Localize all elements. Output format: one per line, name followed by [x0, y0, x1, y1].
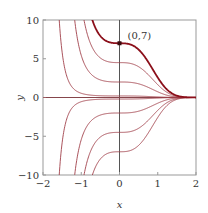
- x-tick-label: −1: [74, 178, 89, 189]
- point-annotation: (0,7): [128, 30, 152, 41]
- x-axis-label: x: [117, 199, 123, 210]
- chart: −2−1012−10−50510 (0,7) x y: [0, 0, 208, 213]
- y-tick-label: −5: [24, 131, 39, 142]
- point-marker: [118, 41, 122, 45]
- y-axis-label: y: [14, 95, 25, 102]
- y-tick-label: 0: [33, 92, 39, 103]
- y-tick-label: 5: [33, 53, 39, 64]
- x-tick-label: 1: [155, 178, 161, 189]
- x-tick-label: 2: [193, 178, 199, 189]
- x-tick-label: 0: [116, 178, 122, 189]
- y-tick-label: 10: [26, 15, 39, 26]
- y-tick-label: −10: [18, 170, 39, 181]
